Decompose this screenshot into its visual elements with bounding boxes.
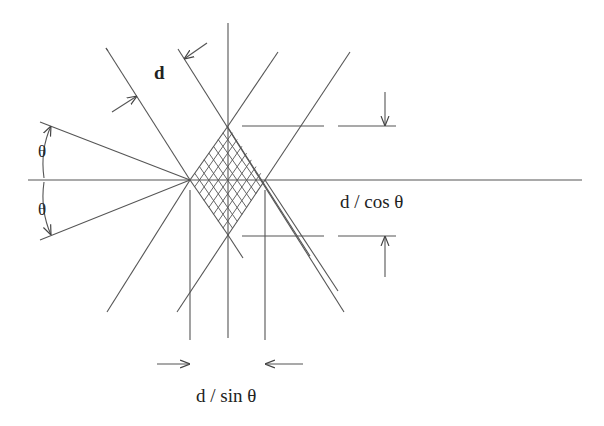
horizontal-dimension-label: d / sin θ [196,385,256,407]
angle-label-lower: θ [38,200,46,220]
fwd-line-inner-bottom [177,235,228,312]
angle-label-upper: θ [38,142,46,162]
upper-ray [40,122,190,180]
back-line-outer-top [106,48,190,180]
fwd-line-outer-bottom [107,180,190,312]
spacing-label: d [154,62,165,84]
d-arrow-lower [112,96,137,112]
fwd-line-outer-top [265,52,350,180]
diagram-lines [0,0,604,426]
fwd-line-inner-top [228,52,278,126]
lower-ray [40,180,190,240]
d-arrow-upper [184,43,207,59]
diagram-canvas: d θ θ d / cos θ d / sin θ [0,0,604,426]
vertical-dimension-label: d / cos θ [340,191,403,213]
